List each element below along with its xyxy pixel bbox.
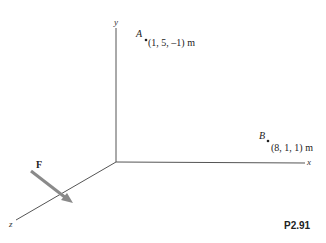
point-b-dot [267, 140, 270, 143]
point-a-name: A [136, 29, 142, 39]
figure-number: P2.91 [284, 220, 310, 231]
point-a-coords: (1, 5, –1) m [148, 38, 195, 48]
x-axis-label: x [307, 158, 311, 167]
x-axis [116, 162, 305, 163]
z-axis-label: z [9, 220, 13, 229]
point-b-coords: (8, 1, 1) m [271, 143, 313, 153]
point-a-dot [145, 39, 148, 42]
y-axis-label: y [114, 18, 118, 27]
force-arrow-icon [31, 171, 73, 203]
z-axis [16, 162, 116, 220]
point-b-name: B [259, 131, 265, 141]
force-label: F [36, 160, 42, 170]
